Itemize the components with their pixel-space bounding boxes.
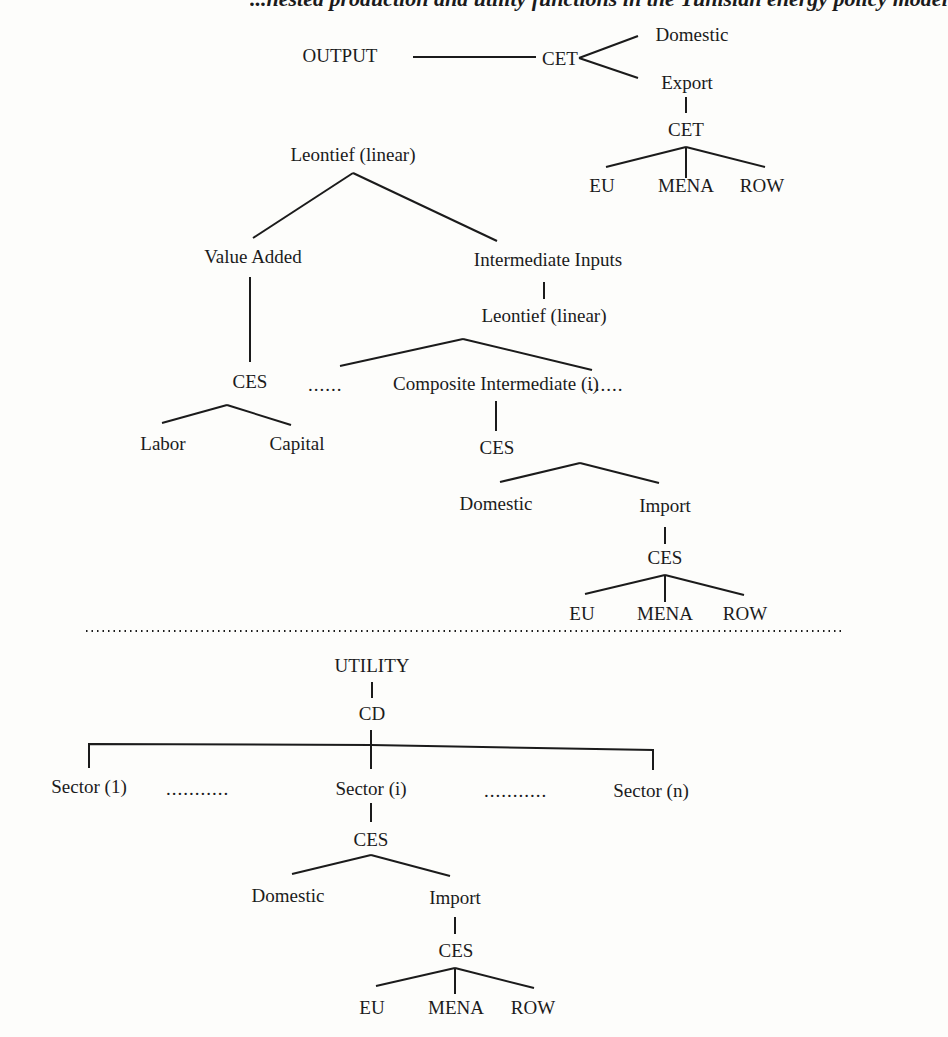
node-intermediate-inputs: Intermediate Inputs [474,250,622,269]
node-u-import: Import [429,888,481,907]
node-output-cet: CET [542,49,578,68]
node-u-import-ces: CES [439,941,474,960]
node-export-row: ROW [740,176,784,195]
node-ii-import: Import [639,496,691,515]
node-u-mena: MENA [428,998,484,1017]
node-ii-domestic: Domestic [460,494,533,513]
ellipsis-right: ...... [589,375,624,394]
node-export-mena: MENA [658,176,714,195]
node-u-row: ROW [511,998,555,1017]
node-u-eu: EU [359,998,384,1017]
node-ii-row: ROW [723,604,767,623]
utility-ellipsis-left: ........... [166,779,229,798]
node-composite-intermediate: Composite Intermediate (i) [393,374,599,393]
node-cd: CD [359,704,385,723]
node-value-added: Value Added [204,247,302,266]
node-export-cet: CET [668,120,704,139]
node-ii-leontief: Leontief (linear) [481,306,606,325]
node-ii-import-ces: CES [648,548,683,567]
ellipsis-left: ...... [308,375,343,394]
node-composite-ces: CES [480,438,515,457]
node-utility: UTILITY [335,656,410,675]
node-sector-n: Sector (n) [613,781,688,800]
node-export: Export [661,73,713,92]
node-export-eu: EU [589,176,614,195]
node-leontief-top: Leontief (linear) [290,145,415,164]
node-va-ces: CES [233,372,268,391]
utility-ellipsis-right: ........... [484,781,547,800]
node-output-domestic: Domestic [656,25,729,44]
node-output: OUTPUT [303,46,378,65]
node-ii-mena: MENA [637,604,693,623]
node-ii-eu: EU [569,604,594,623]
node-sector-i: Sector (i) [335,779,406,798]
node-capital: Capital [270,434,325,453]
node-u-domestic: Domestic [252,886,325,905]
node-sector-1: Sector (1) [51,777,126,796]
node-sector-ces: CES [354,830,389,849]
node-labor: Labor [140,434,185,453]
